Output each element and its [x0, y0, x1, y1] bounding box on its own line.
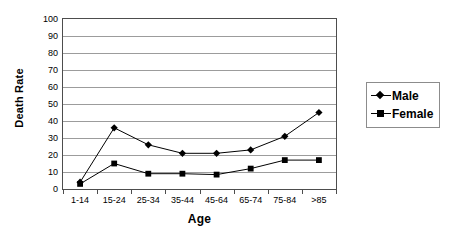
legend-marker-square-icon: [370, 107, 392, 121]
x-axis-tick: [165, 190, 166, 194]
data-point-male-75-84: [281, 133, 288, 140]
data-point-female-45-64: [214, 172, 220, 178]
y-axis-tick-label: 80: [30, 49, 58, 58]
legend-entry-male[interactable]: Male: [370, 87, 436, 105]
legend-label: Female: [392, 108, 433, 121]
y-axis-tick-label: 40: [30, 117, 58, 126]
x-axis-tick: [200, 190, 201, 194]
x-axis-tick: [131, 190, 132, 194]
x-axis-tick-label: >85: [294, 195, 344, 205]
x-axis-tick: [336, 190, 337, 194]
x-axis-tick: [97, 190, 98, 194]
data-point-male-65-74: [247, 146, 254, 153]
legend-entry-female[interactable]: Female: [370, 105, 436, 123]
y-axis-tick-label: 10: [30, 168, 58, 177]
data-point-male-45-64: [213, 150, 220, 157]
x-axis-tick: [234, 190, 235, 194]
data-point-male-35-44: [179, 150, 186, 157]
data-point-female-25-34: [145, 171, 151, 177]
x-axis-tick: [63, 190, 64, 194]
x-axis-tick: [302, 190, 303, 194]
y-axis-tick-label: 90: [30, 32, 58, 41]
data-point-female-35-44: [180, 171, 186, 177]
plot-area: [62, 18, 337, 190]
data-point-male->85: [315, 109, 322, 116]
data-point-female-65-74: [248, 166, 254, 172]
data-point-male-25-34: [145, 141, 152, 148]
data-point-female-15-24: [111, 161, 117, 167]
data-point-female->85: [316, 157, 322, 163]
legend-marker-diamond-icon: [370, 89, 392, 103]
y-axis-tick-label: 50: [30, 100, 58, 109]
y-axis-title: Death Rate: [13, 48, 25, 148]
chart-figure: Death Rate 0102030405060708090100 1-1415…: [0, 0, 461, 234]
chart-legend: MaleFemale: [366, 82, 440, 128]
data-point-female-1-14: [77, 181, 83, 187]
y-axis-tick-label: 0: [30, 185, 58, 194]
x-axis-tick: [268, 190, 269, 194]
x-axis-title: Age: [62, 212, 337, 226]
legend-label: Male: [392, 90, 419, 103]
y-axis-tick-label: 30: [30, 134, 58, 143]
y-axis-tick-label: 100: [30, 15, 58, 24]
y-axis-tick-label: 70: [30, 66, 58, 75]
data-point-female-75-84: [282, 157, 288, 163]
series-line-male: [80, 113, 319, 183]
series-lines: [63, 19, 336, 189]
y-axis-tick-labels: 0102030405060708090100: [30, 18, 58, 190]
data-point-male-15-24: [111, 124, 118, 131]
y-axis-tick-label: 60: [30, 83, 58, 92]
y-axis-tick-label: 20: [30, 151, 58, 160]
